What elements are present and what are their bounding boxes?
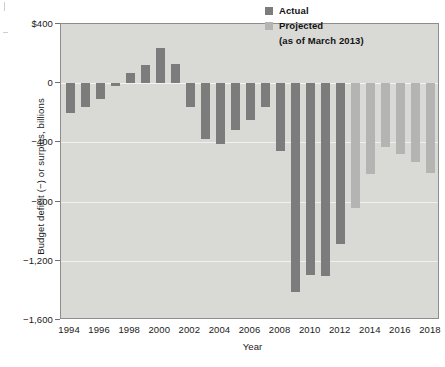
- y-axis-tick-label: 0: [48, 77, 53, 88]
- bar-projected-2014: [366, 83, 375, 174]
- bar-actual-2006: [246, 83, 255, 120]
- x-axis-tick-label: 2006: [239, 324, 261, 335]
- gridline: [61, 261, 438, 262]
- plot-inner: [61, 24, 438, 318]
- bar-projected-2015: [381, 83, 390, 147]
- legend-item-projected: Projected: [265, 20, 397, 32]
- bar-actual-2005: [231, 83, 240, 130]
- y-axis-tick-mark: [55, 141, 60, 142]
- x-axis-tick-label: 2008: [269, 324, 291, 335]
- bar-actual-1997: [111, 83, 120, 86]
- x-axis: 1994199619982000200220042006200820102012…: [0, 324, 445, 340]
- legend-label-projected: Projected: [279, 20, 323, 31]
- legend-swatch-actual-icon: [265, 7, 273, 15]
- legend-item-actual: Actual: [265, 5, 397, 17]
- legend-note: (as of March 2013): [279, 35, 397, 46]
- y-axis-title: Budget deficit (−) or surplus, billions: [35, 62, 46, 292]
- x-axis-tick-label: 2000: [148, 324, 170, 335]
- bar-actual-1996: [96, 83, 105, 99]
- bar-actual-1995: [81, 83, 90, 107]
- bar-projected-2013: [351, 83, 360, 208]
- bar-actual-2007: [261, 83, 270, 107]
- y-axis-tick-mark: [55, 260, 60, 261]
- x-axis-tick-label: 1996: [88, 324, 110, 335]
- bar-actual-1999: [141, 65, 150, 84]
- legend-swatch-projected-icon: [265, 22, 273, 30]
- bar-actual-1994: [66, 83, 75, 113]
- y-axis-tick-mark: [55, 82, 60, 83]
- y-axis-tick-mark: [55, 319, 60, 320]
- y-axis-tick-label: −1,600: [23, 314, 53, 325]
- x-axis-tick-label: 1998: [118, 324, 140, 335]
- y-axis-tick-label: $400: [31, 18, 53, 29]
- x-axis-tick-label: 2016: [389, 324, 411, 335]
- chart-legend: Actual Projected (as of March 2013): [265, 5, 397, 46]
- y-axis-tick-mark: [55, 201, 60, 202]
- bar-actual-2009: [291, 83, 300, 292]
- x-axis-tick-label: 2012: [329, 324, 351, 335]
- bar-actual-2002: [186, 83, 195, 106]
- bar-projected-2016: [396, 83, 405, 153]
- x-axis-tick-label: 2004: [209, 324, 231, 335]
- plot-area: [60, 23, 439, 319]
- bar-actual-2008: [276, 83, 285, 151]
- gridline: [61, 202, 438, 203]
- x-axis-tick-label: 2018: [419, 324, 441, 335]
- y-axis-tick-mark: [55, 23, 60, 24]
- bar-projected-2017: [411, 83, 420, 162]
- x-axis-tick-label: 1994: [58, 324, 80, 335]
- x-axis-tick-label: 2002: [179, 324, 201, 335]
- x-axis-title: Year: [0, 341, 445, 352]
- bar-actual-2010: [306, 83, 315, 275]
- x-axis-tick-label: 2014: [359, 324, 381, 335]
- x-axis-tick-label: 2010: [299, 324, 321, 335]
- bar-actual-1998: [126, 73, 135, 83]
- legend-label-actual: Actual: [279, 5, 309, 16]
- bar-actual-2011: [321, 83, 330, 275]
- bar-actual-2004: [216, 83, 225, 144]
- budget-deficit-chart-figure: $4000−400−800−1,200−1,600 Budget deficit…: [0, 0, 445, 367]
- bar-actual-2012: [336, 83, 345, 244]
- bar-actual-2003: [201, 83, 210, 139]
- bar-actual-2001: [171, 64, 180, 83]
- bar-actual-2000: [156, 48, 165, 83]
- y-axis: $4000−400−800−1,200−1,600: [0, 0, 57, 367]
- bar-projected-2018: [426, 83, 435, 173]
